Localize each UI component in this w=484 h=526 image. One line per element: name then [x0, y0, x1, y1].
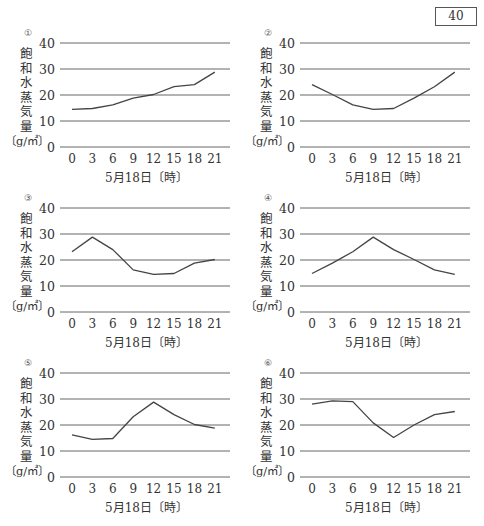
x-tick-label: 15	[406, 482, 421, 496]
y-tick-label: 40	[39, 201, 55, 216]
x-tick-label: 3	[329, 482, 337, 496]
data-series-line	[312, 72, 455, 109]
data-series-line	[72, 402, 215, 439]
y-tick-label: 30	[39, 392, 55, 407]
x-tick-label: 21	[447, 317, 462, 331]
x-axis-label: 5月18日〔時〕	[105, 333, 188, 350]
x-tick-label: 12	[146, 152, 161, 166]
x-tick-label: 15	[166, 152, 181, 166]
y-tick-label: 30	[279, 62, 295, 77]
x-tick-label: 18	[187, 317, 202, 331]
y-tick-label: 30	[39, 62, 55, 77]
chart-panel-3: ③飽和水蒸気量〔g/㎥〕0102030400369121518215月18日〔時…	[0, 196, 242, 361]
x-tick-label: 18	[427, 152, 442, 166]
data-series-line	[312, 401, 455, 438]
y-tick-label: 0	[287, 470, 295, 485]
y-tick-label: 0	[47, 470, 55, 485]
x-tick-label: 18	[187, 482, 202, 496]
x-tick-label: 9	[129, 152, 137, 166]
y-tick-label: 40	[39, 366, 55, 381]
x-tick-label: 0	[68, 482, 76, 496]
y-tick-label: 40	[279, 201, 295, 216]
chart-panel-6: ⑥飽和水蒸気量〔g/㎥〕0102030400369121518215月18日〔時…	[240, 361, 482, 526]
x-tick-label: 15	[406, 317, 421, 331]
x-tick-label: 21	[207, 317, 222, 331]
x-tick-label: 6	[109, 482, 117, 496]
y-tick-label: 10	[39, 444, 55, 459]
x-tick-label: 3	[89, 152, 97, 166]
x-tick-label: 3	[329, 152, 337, 166]
answer-number-box: 40	[435, 7, 477, 26]
y-tick-label: 0	[287, 140, 295, 155]
chart-panel-5: ⑤飽和水蒸気量〔g/㎥〕0102030400369121518215月18日〔時…	[0, 361, 242, 526]
x-tick-label: 12	[386, 482, 401, 496]
x-tick-label: 18	[427, 482, 442, 496]
chart-panel-4: ④飽和水蒸気量〔g/㎥〕0102030400369121518215月18日〔時…	[240, 196, 482, 361]
y-tick-label: 0	[47, 140, 55, 155]
chart-panel-2: ②飽和水蒸気量〔g/㎥〕0102030400369121518215月18日〔時…	[240, 31, 482, 196]
x-tick-label: 12	[386, 317, 401, 331]
x-tick-label: 6	[349, 317, 357, 331]
x-tick-label: 21	[447, 152, 462, 166]
chart-panel-1: ①飽和水蒸気量〔g/㎥〕0102030400369121518215月18日〔時…	[0, 31, 242, 196]
x-tick-label: 0	[308, 482, 316, 496]
x-tick-label: 9	[129, 317, 137, 331]
x-tick-label: 0	[308, 152, 316, 166]
x-tick-label: 12	[386, 152, 401, 166]
x-tick-label: 15	[166, 317, 181, 331]
x-tick-label: 3	[329, 317, 337, 331]
x-tick-label: 6	[109, 317, 117, 331]
y-tick-label: 20	[279, 253, 295, 268]
y-tick-label: 20	[279, 418, 295, 433]
data-series-line	[72, 237, 215, 274]
x-tick-label: 21	[207, 152, 222, 166]
y-tick-label: 10	[279, 444, 295, 459]
x-tick-label: 9	[369, 152, 377, 166]
y-tick-label: 0	[287, 305, 295, 320]
x-tick-label: 6	[349, 482, 357, 496]
x-axis-label: 5月18日〔時〕	[345, 333, 428, 350]
y-tick-label: 0	[47, 305, 55, 320]
y-tick-label: 30	[39, 227, 55, 242]
y-tick-label: 10	[39, 114, 55, 129]
x-tick-label: 21	[447, 482, 462, 496]
x-tick-label: 6	[109, 152, 117, 166]
y-tick-label: 30	[279, 227, 295, 242]
x-tick-label: 0	[68, 317, 76, 331]
x-tick-label: 15	[166, 482, 181, 496]
x-axis-label: 5月18日〔時〕	[345, 168, 428, 185]
x-tick-label: 3	[89, 482, 97, 496]
x-tick-label: 21	[207, 482, 222, 496]
y-tick-label: 20	[279, 88, 295, 103]
x-tick-label: 0	[308, 317, 316, 331]
y-tick-label: 10	[279, 279, 295, 294]
y-tick-label: 10	[39, 279, 55, 294]
data-series-line	[312, 237, 455, 274]
x-tick-label: 3	[89, 317, 97, 331]
y-tick-label: 30	[279, 392, 295, 407]
x-tick-label: 18	[427, 317, 442, 331]
x-axis-label: 5月18日〔時〕	[105, 498, 188, 515]
x-tick-label: 12	[146, 317, 161, 331]
x-tick-label: 12	[146, 482, 161, 496]
x-tick-label: 9	[129, 482, 137, 496]
data-series-line	[72, 72, 215, 109]
y-tick-label: 20	[39, 418, 55, 433]
x-tick-label: 15	[406, 152, 421, 166]
y-tick-label: 20	[39, 253, 55, 268]
y-tick-label: 40	[39, 36, 55, 51]
x-tick-label: 9	[369, 317, 377, 331]
x-tick-label: 6	[349, 152, 357, 166]
x-tick-label: 0	[68, 152, 76, 166]
x-axis-label: 5月18日〔時〕	[345, 498, 428, 515]
y-tick-label: 20	[39, 88, 55, 103]
y-tick-label: 40	[279, 366, 295, 381]
x-tick-label: 9	[369, 482, 377, 496]
x-axis-label: 5月18日〔時〕	[105, 168, 188, 185]
y-tick-label: 40	[279, 36, 295, 51]
y-tick-label: 10	[279, 114, 295, 129]
x-tick-label: 18	[187, 152, 202, 166]
